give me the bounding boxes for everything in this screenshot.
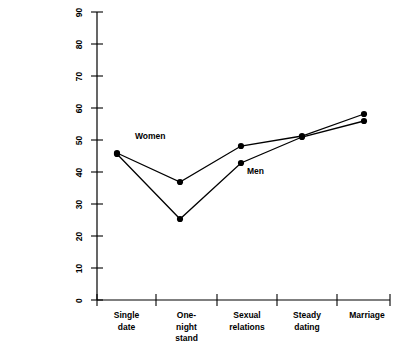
data-point-men-steady-dating xyxy=(299,134,305,140)
series-label-women: Women xyxy=(135,131,166,141)
data-point-women-marriage xyxy=(361,111,367,117)
data-point-men-marriage xyxy=(361,118,367,124)
x-tick-label-one-night-stand: One- night stand xyxy=(156,310,217,345)
data-point-men-sexual-relations xyxy=(238,160,244,166)
x-tick-label-single-date: Single date xyxy=(97,310,156,333)
data-point-women-sexual-relations xyxy=(238,143,244,149)
data-point-men-one-night-stand xyxy=(177,216,183,222)
x-tick-label-sexual-relations: Sexual relations xyxy=(217,310,277,333)
data-point-women-one-night-stand xyxy=(177,179,183,185)
data-point-men-single-date xyxy=(114,151,120,157)
x-tick-label-steady-dating: Steady dating xyxy=(277,310,337,333)
chart-plot-area xyxy=(0,0,401,357)
x-tick-label-marriage: Marriage xyxy=(337,310,397,322)
chart-figure: Minimally Acceptable Intelligence (Perce… xyxy=(0,0,401,357)
series-label-men: Men xyxy=(247,166,264,176)
series-women xyxy=(114,111,367,185)
